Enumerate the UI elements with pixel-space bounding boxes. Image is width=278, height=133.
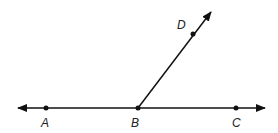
label-c: C (232, 116, 241, 130)
label-a: A (40, 116, 49, 130)
label-d: D (177, 18, 186, 32)
point-b (136, 106, 141, 111)
point-d (191, 32, 196, 37)
geometry-diagram: A B C D (0, 0, 278, 133)
point-a (44, 106, 49, 111)
label-b: B (131, 116, 139, 130)
point-c (234, 106, 239, 111)
ray-bd (138, 12, 211, 108)
